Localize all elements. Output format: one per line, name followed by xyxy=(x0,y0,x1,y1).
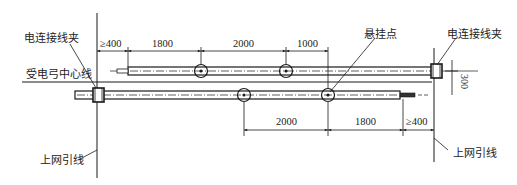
clamp-left xyxy=(93,88,104,102)
suspension-point-label: 悬挂点 xyxy=(364,29,397,41)
upper-tube xyxy=(110,67,478,75)
dim-top-1: ≥400 xyxy=(100,38,122,50)
vertical-offset-dimension xyxy=(445,60,458,95)
dim-top-2: 1800 xyxy=(152,38,173,50)
pantograph-centerline-label: 受电弓中心线 xyxy=(26,69,92,81)
dim-bottom-3: ≥400 xyxy=(406,116,428,128)
lower-tube xyxy=(75,91,430,99)
feeder-label-left: 上网引线 xyxy=(40,155,84,167)
dim-bottom-1: 2000 xyxy=(276,116,297,128)
clamp-label-right: 电连接线夹 xyxy=(447,29,502,41)
clamp-label-left: 电连接线夹 xyxy=(24,33,79,45)
dim-vertical-offset: 300 xyxy=(459,74,470,89)
dim-top-4: 1000 xyxy=(297,38,318,50)
dim-top-3: 2000 xyxy=(233,38,254,50)
dim-bottom-2: 1800 xyxy=(355,116,376,128)
clamp-right xyxy=(431,64,442,78)
feeder-label-right: 上网引线 xyxy=(453,148,497,160)
